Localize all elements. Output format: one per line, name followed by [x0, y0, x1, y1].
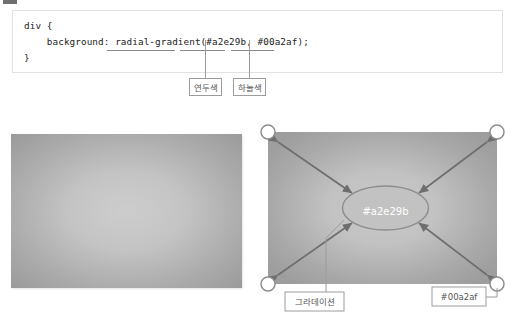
gradation-callout-text: 그라데이션	[295, 297, 335, 307]
handle-top-left	[261, 125, 275, 139]
leader-line-green	[205, 40, 206, 78]
leader-line-blue	[249, 40, 250, 78]
underline-color-green	[180, 50, 225, 51]
callout-green-label: 연두색	[189, 78, 222, 96]
underline-radial-gradient	[107, 50, 175, 51]
screenshot-root: div { background: radial-gradient(#a2e29…	[0, 0, 513, 326]
callout-blue-label: 하늘색	[233, 78, 266, 96]
underline-color-blue	[231, 50, 274, 51]
css-code-block: div { background: radial-gradient(#a2e29…	[12, 10, 503, 73]
gradient-preview-box	[11, 134, 242, 288]
radial-gradient-diagram: #a2e29b 그라데이션 #00a2af	[258, 120, 513, 326]
handle-bottom-left	[261, 277, 275, 291]
edge-color-callout-text: #00a2af	[441, 292, 479, 302]
callout-blue-text: 하늘색	[238, 81, 262, 93]
css-code-text: div { background: radial-gradient(#a2e29…	[24, 18, 309, 66]
callout-green-text: 연두색	[194, 81, 218, 93]
clipped-toolbar-fragment	[3, 0, 17, 4]
handle-top-right	[490, 125, 504, 139]
center-ellipse-label: #a2e29b	[362, 206, 408, 217]
